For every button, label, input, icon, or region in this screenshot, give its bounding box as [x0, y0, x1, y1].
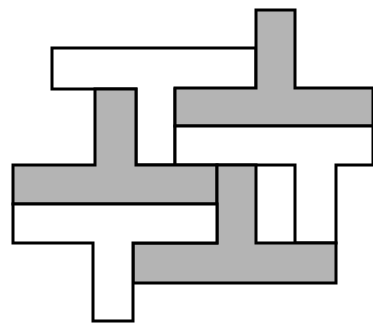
- tile-pattern-svg: [0, 0, 373, 331]
- t-tile-diagram: [0, 0, 373, 331]
- tiles-group: [13, 10, 373, 321]
